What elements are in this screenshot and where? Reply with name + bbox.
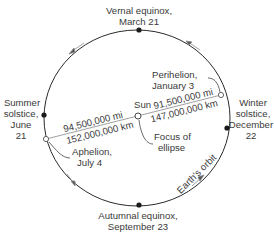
earth-orbit-diagram: Vernal equinox, March 21 Autumnal equino…: [0, 0, 274, 232]
winter-label-line1: Winter: [239, 97, 268, 108]
orbit-svg: Vernal equinox, March 21 Autumnal equino…: [0, 0, 274, 232]
winter-label-line2: solstice,: [236, 108, 271, 119]
autumnal-equinox-dot: [136, 202, 141, 207]
vernal-equinox-dot: [136, 27, 141, 32]
perihelion-distance-group: 91,500,000 mi 147,000,000 km: [147, 85, 219, 124]
aphelion-marker: [43, 136, 48, 141]
vernal-label-line2: March 21: [119, 16, 159, 27]
aphelion-label-line1: Aphelion,: [72, 146, 112, 157]
aphelion-distance-group: 94,500,000 mi 152,000,000 km: [62, 107, 134, 146]
earths-orbit-label: Earth's orbit: [174, 152, 218, 196]
winter-label-line4: 22: [246, 130, 257, 141]
aphelion-label-line2: July 4: [77, 157, 103, 168]
autumnal-label-line2: September 23: [108, 221, 168, 232]
vernal-label-line1: Vernal equinox,: [106, 5, 172, 16]
perihelion-label-line2: January 3: [152, 80, 194, 91]
arrow-bottom-left-head: [71, 181, 75, 186]
perihelion-label-line1: Perihelion,: [152, 69, 197, 80]
winter-label-line3: December: [229, 119, 274, 130]
summer-label-line1: Summer: [4, 97, 41, 108]
sun-focus-marker: [135, 113, 141, 119]
summer-label-line3: June: [11, 119, 32, 130]
autumnal-label-line1: Autumnal equinox,: [98, 210, 177, 221]
focus-label-line2: ellipse: [158, 142, 185, 153]
summer-label-line4: 21: [16, 130, 27, 141]
perihelion-marker: [218, 92, 223, 97]
summer-solstice-dot: [41, 112, 46, 117]
summer-label-line2: solstice,: [4, 108, 39, 119]
sun-label: Sun: [134, 99, 151, 110]
focus-label-line1: Focus of: [154, 131, 191, 142]
